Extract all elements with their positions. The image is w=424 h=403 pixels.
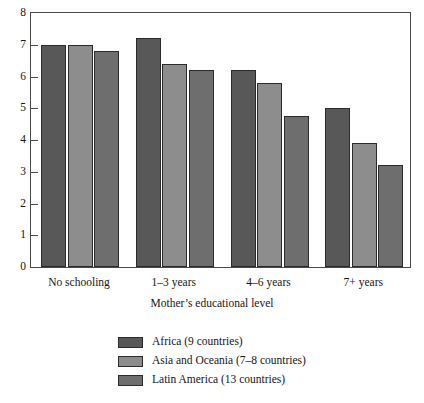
y-tick-label: 7 [20, 39, 26, 51]
y-tick-label: 1 [20, 230, 26, 242]
bar [284, 116, 309, 267]
legend-swatch [118, 375, 143, 386]
plot-frame: 012345678 [30, 12, 411, 268]
x-axis-title: Mother’s educational level [0, 297, 424, 309]
y-tick-label: 0 [20, 261, 26, 273]
bar [41, 45, 66, 267]
bar [325, 108, 350, 267]
x-tick-label: 7+ years [303, 277, 423, 289]
y-tick-label: 5 [20, 103, 26, 115]
bar [94, 51, 119, 267]
legend-item: Africa (9 countries) [118, 336, 306, 348]
legend-label: Africa (9 countries) [152, 336, 243, 348]
y-tick-label: 2 [20, 198, 26, 210]
legend-swatch [118, 356, 143, 367]
chart-figure: 012345678 No schooling1–3 years4–6 years… [0, 0, 424, 403]
bar [68, 45, 93, 267]
y-tick-label: 6 [20, 71, 26, 83]
y-tick-label: 3 [20, 166, 26, 178]
legend-label: Latin America (13 countries) [152, 374, 285, 386]
bar [162, 64, 187, 267]
bar [352, 143, 377, 267]
bar [231, 70, 256, 267]
chart-legend: Africa (9 countries)Asia and Oceania (7–… [118, 336, 306, 386]
y-tick-label: 8 [20, 7, 26, 19]
bar [378, 165, 403, 267]
bar [136, 38, 161, 267]
legend-item: Asia and Oceania (7–8 countries) [118, 355, 306, 367]
legend-swatch [118, 337, 143, 348]
y-tick-label: 4 [20, 134, 26, 146]
plot-area [31, 13, 410, 267]
bar [189, 70, 214, 267]
legend-item: Latin America (13 countries) [118, 374, 306, 386]
legend-label: Asia and Oceania (7–8 countries) [152, 355, 306, 367]
bar [257, 83, 282, 267]
